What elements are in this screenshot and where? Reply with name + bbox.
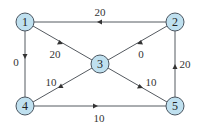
node-2: 2 [166,13,184,31]
weight-1-3: 20 [50,48,62,60]
edge-3-4 [33,68,92,102]
arrow-down-icon [23,54,28,59]
edge-1-3 [33,26,92,60]
arrow-left-icon [97,20,102,25]
weight-3-4: 10 [46,76,58,88]
node-label: 2 [172,15,178,29]
weight-4-5: 10 [94,112,106,124]
arrow-down-left-icon [58,84,64,89]
weight-5-2: 20 [180,58,192,70]
node-3: 3 [91,55,109,73]
node-label: 1 [22,15,28,29]
arrow-right-icon [93,104,98,109]
edge-3-5 [108,68,167,102]
node-5: 5 [166,97,184,115]
weight-2-1: 20 [95,6,107,18]
node-label: 3 [97,57,103,71]
weight-3-5: 10 [146,76,158,88]
directed-weighted-graph: 20 20 0 0 10 10 10 20 1 2 3 4 5 [0,0,198,133]
node-label: 4 [22,99,28,113]
weight-2-3: 0 [138,48,144,60]
weight-1-4: 0 [13,56,19,68]
node-label: 5 [172,99,178,113]
node-1: 1 [16,13,34,31]
node-4: 4 [16,97,34,115]
arrow-up-icon [173,64,178,69]
